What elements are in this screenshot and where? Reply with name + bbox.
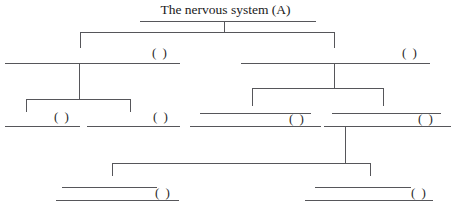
- blank-marker-level3-right: ( ): [411, 186, 427, 199]
- blank-marker-level1-left: ( ): [152, 46, 168, 59]
- nervous-system-diagram: The nervous system (A) ( )( )( )( )( )( …: [0, 0, 451, 220]
- blank-marker-level3-left: ( ): [155, 186, 171, 199]
- blank-marker-level1-right: ( ): [402, 46, 418, 59]
- blank-marker-level2-left-a: ( ): [54, 110, 70, 123]
- blank-marker-level2-right-b: ( ): [418, 112, 434, 125]
- blank-marker-level2-left-b: ( ): [153, 110, 169, 123]
- connector-layer: [26, 22, 384, 176]
- blank-line-layer: [5, 64, 451, 201]
- page-title: The nervous system (A): [0, 2, 451, 17]
- blank-marker-level2-right-a: ( ): [289, 112, 305, 125]
